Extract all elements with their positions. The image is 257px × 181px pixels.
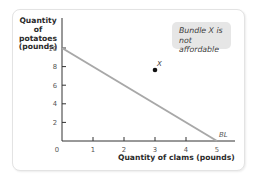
x-axis-title: Quantity of clams (pounds) bbox=[118, 153, 222, 162]
y-tick-label-10: 10 bbox=[48, 45, 57, 53]
y-tick-label-4: 4 bbox=[53, 100, 57, 108]
y-tick-label-2: 2 bbox=[53, 119, 57, 127]
x-tick-label-1: 1 bbox=[91, 146, 95, 154]
origin-label: 0 bbox=[55, 146, 59, 154]
point-x-marker bbox=[153, 68, 158, 73]
y-tick-label-6: 6 bbox=[53, 82, 57, 90]
y-tick-label-8: 8 bbox=[53, 63, 57, 71]
point-x-label: X bbox=[156, 60, 162, 68]
y-ticks: 10 8 6 4 2 bbox=[48, 45, 66, 127]
budget-line bbox=[62, 48, 217, 141]
x-ticks: 0 1 2 3 4 5 bbox=[55, 137, 219, 154]
budget-line-label: BL bbox=[219, 131, 228, 139]
